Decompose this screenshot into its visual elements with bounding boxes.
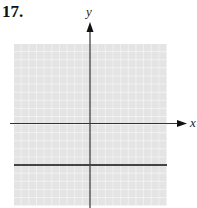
y-axis-arrow-icon bbox=[87, 22, 94, 32]
x-axis-label: x bbox=[190, 115, 196, 131]
y-axis-label: y bbox=[86, 4, 92, 20]
x-axis-arrow-icon bbox=[177, 120, 187, 127]
coordinate-grid bbox=[0, 0, 197, 208]
